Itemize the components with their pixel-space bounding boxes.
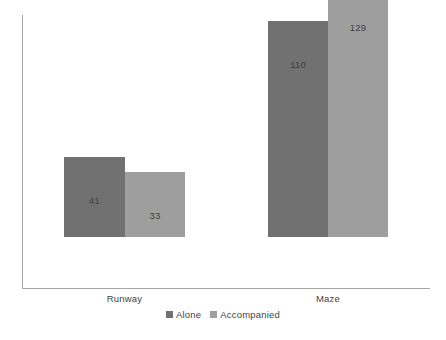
bar-value-maze-alone: 110	[268, 59, 328, 70]
bar-value-maze-accompanied: 129	[328, 22, 388, 33]
bar-value-runway-alone: 41	[64, 195, 125, 206]
x-tick-label-runway: Runway	[64, 293, 185, 304]
legend-label-alone: Alone	[176, 310, 201, 320]
plot-area: 41 33 110 129	[0, 0, 446, 289]
legend-label-accompanied: Accompanied	[220, 310, 280, 320]
bar-maze-accompanied[interactable]	[328, 0, 388, 237]
legend: Alone Accompanied	[0, 310, 446, 320]
bar-value-runway-accompanied: 33	[125, 210, 185, 221]
bar-runway-accompanied[interactable]	[125, 172, 185, 237]
legend-swatch-icon-accompanied	[210, 311, 217, 318]
bar-chart: 41 33 110 129 Runway Maze Alone Accompan…	[0, 0, 446, 340]
bar-maze-alone[interactable]	[268, 21, 328, 237]
legend-item-alone[interactable]: Alone	[166, 310, 201, 320]
legend-item-accompanied[interactable]: Accompanied	[210, 310, 280, 320]
legend-swatch-icon-alone	[166, 311, 173, 318]
x-tick-label-maze: Maze	[268, 293, 388, 304]
